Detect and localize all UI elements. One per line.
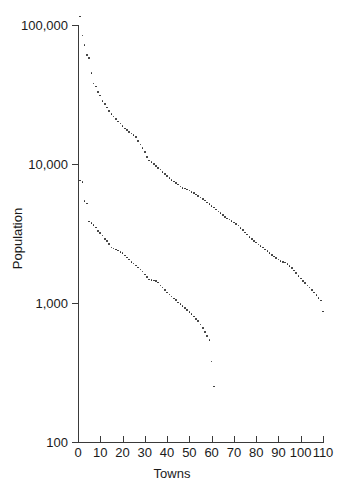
data-point (79, 16, 81, 18)
data-point (162, 171, 164, 173)
data-point (177, 302, 179, 304)
data-point (307, 285, 309, 287)
data-point (99, 232, 101, 234)
population-rank-scatter-chart: 100,00010,0001,000100 010203040506070809… (0, 0, 344, 492)
data-point (316, 294, 318, 296)
data-point (131, 261, 133, 263)
data-point (95, 227, 97, 229)
data-point (124, 255, 126, 257)
data-point (275, 257, 277, 259)
data-point (215, 209, 217, 211)
data-point (180, 303, 182, 305)
data-point (226, 218, 228, 220)
data-point (206, 202, 208, 204)
data-point (146, 156, 148, 158)
data-point (264, 249, 266, 251)
data-point (293, 270, 295, 272)
data-point (86, 54, 88, 56)
data-point (104, 103, 106, 105)
data-point (117, 121, 119, 123)
data-point (309, 287, 311, 289)
data-point (113, 116, 115, 118)
data-point (157, 282, 159, 284)
data-point (195, 318, 197, 320)
data-point (229, 219, 231, 221)
data-point (120, 251, 122, 253)
data-point (82, 181, 84, 183)
data-point (140, 144, 142, 146)
data-point (160, 169, 162, 171)
data-point (140, 269, 142, 271)
data-point (267, 250, 269, 252)
data-point (142, 147, 144, 149)
data-point (144, 151, 146, 153)
data-point (180, 186, 182, 188)
data-point (318, 297, 320, 299)
data-point (209, 203, 211, 205)
data-point (117, 250, 119, 252)
data-point (291, 267, 293, 269)
data-point (148, 279, 150, 281)
data-point (200, 324, 202, 326)
data-point (111, 113, 113, 115)
data-point (189, 190, 191, 192)
data-point (157, 167, 159, 169)
data-point (197, 320, 199, 322)
data-point (84, 44, 86, 46)
data-point (169, 294, 171, 296)
data-point (175, 299, 177, 301)
data-point (255, 242, 257, 244)
data-point (91, 222, 93, 224)
data-point (142, 271, 144, 273)
data-point (189, 311, 191, 313)
data-point (193, 316, 195, 318)
data-point (102, 100, 104, 102)
data-point (108, 243, 110, 245)
data-point (246, 234, 248, 236)
data-point (93, 224, 95, 226)
data-point (162, 287, 164, 289)
data-point (295, 272, 297, 274)
data-point (91, 72, 93, 74)
data-point (122, 125, 124, 127)
data-point (311, 289, 313, 291)
data-point (166, 175, 168, 177)
data-point (186, 189, 188, 191)
data-point (284, 262, 286, 264)
data-point (95, 86, 97, 88)
data-point (298, 275, 300, 277)
data-point (240, 227, 242, 229)
data-point (97, 91, 99, 93)
data-point (79, 180, 81, 182)
data-point (169, 177, 171, 179)
plot-area (0, 0, 344, 492)
data-point (160, 285, 162, 287)
data-point (278, 259, 280, 261)
data-point (218, 211, 220, 213)
data-point (106, 107, 108, 109)
data-point (99, 95, 101, 97)
data-point (258, 244, 260, 246)
data-point (120, 123, 122, 125)
data-point (128, 259, 130, 261)
data-point (137, 140, 139, 142)
data-point (202, 327, 204, 329)
data-point (135, 136, 137, 138)
data-point (204, 331, 206, 333)
data-point (238, 225, 240, 227)
data-point (287, 263, 289, 265)
y-axis-title: Population (11, 191, 24, 287)
data-point (164, 289, 166, 291)
data-point (177, 184, 179, 186)
data-point (146, 276, 148, 278)
data-point (313, 292, 315, 294)
data-point (191, 313, 193, 315)
data-point (106, 240, 108, 242)
data-point (148, 160, 150, 162)
data-point (115, 118, 117, 120)
data-point (111, 247, 113, 249)
data-point (209, 339, 211, 341)
data-point (82, 35, 84, 37)
data-point (108, 110, 110, 112)
data-point (322, 311, 324, 313)
